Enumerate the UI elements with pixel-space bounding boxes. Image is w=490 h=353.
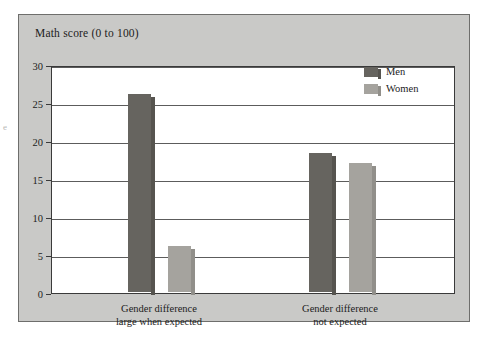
chart-panel: Math score (0 to 100) Men Women 05101520…	[18, 14, 470, 322]
legend-swatch-men-icon	[364, 67, 378, 77]
x-category-label-2: Gender differencenot expected	[250, 302, 430, 328]
bar-men-group2	[309, 153, 332, 292]
bar-men-group1	[128, 94, 151, 292]
gridline	[52, 257, 454, 258]
y-tick-label: 20	[19, 137, 43, 148]
y-tick-mark	[46, 180, 51, 181]
y-tick-mark	[46, 104, 51, 105]
x-category-line: Gender difference	[250, 302, 430, 315]
y-tick-mark	[46, 218, 51, 219]
y-tick-label: 15	[19, 175, 43, 186]
y-tick-label: 25	[19, 99, 43, 110]
y-tick-mark	[46, 294, 51, 295]
x-category-line: Gender difference	[69, 302, 249, 315]
margin-stray-mark: e	[3, 122, 7, 132]
x-category-line: large when expected	[69, 315, 249, 328]
legend-item-women: Women	[364, 80, 418, 97]
legend-item-men: Men	[364, 63, 418, 80]
legend-label-men: Men	[386, 66, 405, 77]
y-tick-mark	[46, 142, 51, 143]
legend-label-women: Women	[386, 83, 418, 94]
y-tick-mark	[46, 256, 51, 257]
x-category-label-1: Gender differencelarge when expected	[69, 302, 249, 328]
gridline	[52, 143, 454, 144]
y-tick-label: 5	[19, 251, 43, 262]
bar-women-group1	[168, 246, 191, 292]
gridline	[52, 219, 454, 220]
y-tick-label: 10	[19, 213, 43, 224]
x-category-line: not expected	[250, 315, 430, 328]
chart-legend: Men Women	[364, 63, 418, 97]
gridline	[52, 181, 454, 182]
y-tick-label: 30	[19, 61, 43, 72]
y-tick-mark	[46, 66, 51, 67]
y-tick-label: 0	[19, 289, 43, 300]
plot-area	[51, 66, 455, 294]
y-axis-title: Math score (0 to 100)	[35, 27, 139, 39]
bar-women-group2	[349, 163, 372, 292]
legend-swatch-women-icon	[364, 84, 378, 94]
gridline	[52, 105, 454, 106]
